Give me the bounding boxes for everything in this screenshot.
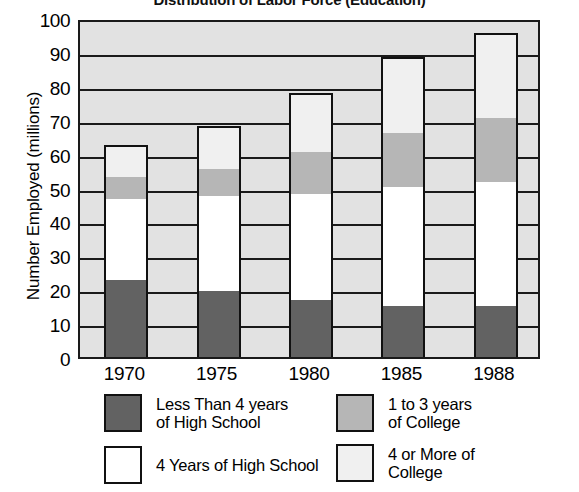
bar-segment	[476, 118, 516, 182]
bar-1970[interactable]	[104, 145, 148, 357]
legend-label: Less Than 4 years of High School	[156, 395, 288, 432]
bar-1988[interactable]	[474, 33, 518, 357]
y-tick-label: 70	[0, 113, 70, 132]
bar-segment	[199, 169, 239, 196]
x-tick-label: 1975	[172, 363, 262, 385]
x-tick-label: 1988	[449, 363, 539, 385]
y-tick-label: 30	[0, 248, 70, 267]
bar-segment	[476, 306, 516, 357]
y-tick-label: 80	[0, 79, 70, 98]
bar-segment	[199, 128, 239, 168]
y-tick-label: 60	[0, 147, 70, 166]
legend-item[interactable]: 1 to 3 years of College	[336, 394, 472, 432]
bar-segment	[383, 187, 423, 307]
bar-segment	[291, 300, 331, 357]
y-tick-label: 50	[0, 181, 70, 200]
legend-swatch-icon	[104, 446, 142, 484]
legend-item[interactable]: Less Than 4 years of High School	[104, 394, 288, 432]
bar-segment	[199, 291, 239, 357]
bar-segment	[291, 194, 331, 300]
legend-swatch-icon	[104, 394, 142, 432]
bar-1975[interactable]	[197, 126, 241, 357]
bar-1980[interactable]	[289, 93, 333, 357]
plot-area	[78, 20, 540, 359]
bar-segment	[291, 95, 331, 152]
legend-item[interactable]: 4 Years of High School	[104, 446, 319, 484]
gridline	[80, 89, 538, 91]
bar-segment	[383, 306, 423, 357]
bar-segment	[106, 199, 146, 280]
legend-label: 4 or More of College	[388, 445, 475, 482]
y-tick-label: 20	[0, 282, 70, 301]
bar-segment	[383, 59, 423, 133]
bar-segment	[476, 35, 516, 118]
x-tick-label: 1970	[79, 363, 169, 385]
bar-segment	[106, 147, 146, 177]
chart-title: Distribution of Labor Force (Education)	[0, 0, 579, 8]
chart-legend: Less Than 4 years of High School1 to 3 y…	[104, 392, 544, 488]
y-tick-label: 0	[0, 350, 70, 369]
bar-segment	[106, 177, 146, 199]
plot-inner	[80, 22, 538, 357]
legend-swatch-icon	[336, 394, 374, 432]
legend-label: 1 to 3 years of College	[388, 395, 472, 432]
bar-chart: Distribution of Labor Force (Education) …	[0, 0, 579, 492]
bar-segment	[476, 182, 516, 307]
bar-segment	[199, 196, 239, 292]
y-tick-label: 10	[0, 316, 70, 335]
bar-segment	[291, 152, 331, 194]
legend-label: 4 Years of High School	[156, 456, 319, 474]
y-tick-label: 40	[0, 214, 70, 233]
bar-1985[interactable]	[381, 57, 425, 357]
legend-swatch-icon	[336, 444, 374, 482]
x-tick-label: 1980	[264, 363, 354, 385]
bar-segment	[383, 133, 423, 187]
y-tick-label: 90	[0, 45, 70, 64]
legend-item[interactable]: 4 or More of College	[336, 444, 475, 482]
x-tick-label: 1985	[356, 363, 446, 385]
bar-segment	[106, 280, 146, 357]
y-tick-label: 100	[0, 11, 70, 30]
gridline	[80, 55, 538, 57]
